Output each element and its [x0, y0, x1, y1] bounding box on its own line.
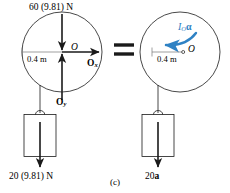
applied-weight-label: 60 (9.81) N [29, 3, 73, 13]
figure-vector-graphics [0, 0, 230, 193]
right-center-point-label: O [188, 45, 195, 55]
physics-figure-panel: 60 (9.81) N 0.4 m O Ox Oy 20 (9.81) N = … [0, 0, 230, 193]
block-inertia-number: 20 [145, 171, 155, 181]
moment-symbol-alpha: α [186, 21, 192, 32]
figure-caption: (c) [110, 178, 120, 187]
left-radius-label: 0.4 m [27, 55, 47, 64]
block-inertia-vector: a [155, 171, 160, 181]
reaction-y-subscript: y [63, 100, 66, 107]
block-weight-label: 20 (9.81) N [9, 172, 53, 182]
right-radius-label: 0.4 m [157, 55, 177, 64]
moment-of-inertia-label: IOα [178, 22, 192, 33]
block-inertia-label: 20a [145, 172, 159, 182]
reaction-x-subscript: x [94, 61, 97, 68]
left-center-point-label: O [71, 43, 78, 53]
equals-sign-graphic [114, 45, 134, 54]
reaction-x-label: Ox [87, 59, 98, 69]
reaction-y-label: Oy [56, 98, 66, 108]
